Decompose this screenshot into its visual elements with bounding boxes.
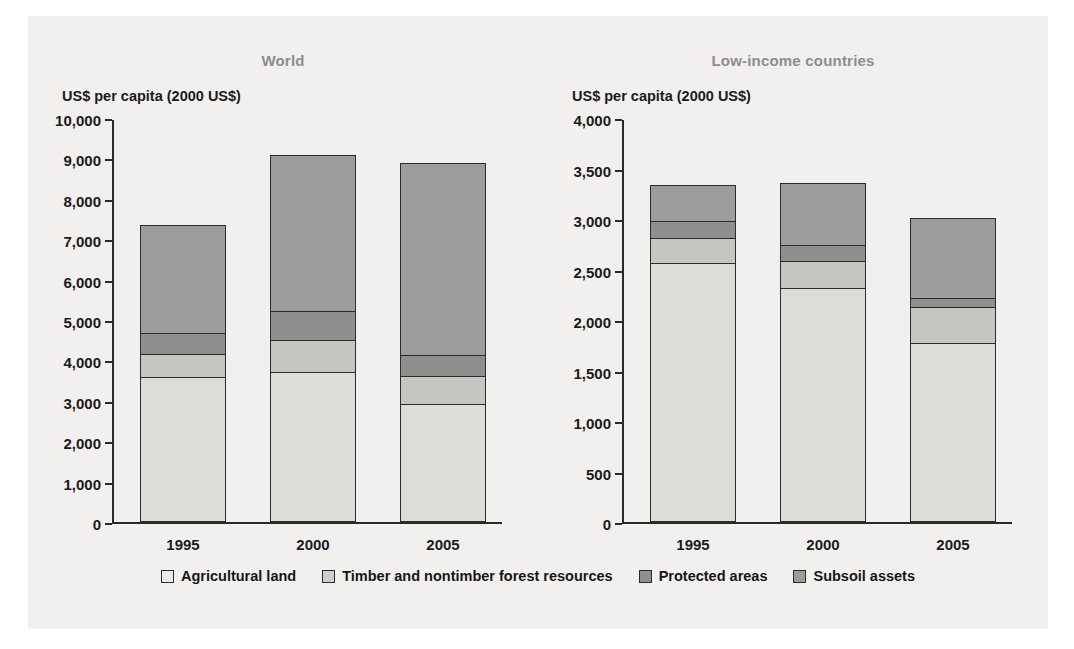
legend-label: Agricultural land [181, 568, 296, 584]
y-axis-tick-label: 5,000 [63, 314, 101, 331]
y-axis-tick [105, 281, 112, 283]
y-axis-tick [615, 170, 622, 172]
chart-panel-world: World US$ per capita (2000 US$) 01,0002,… [28, 16, 538, 629]
y-axis-tick [105, 159, 112, 161]
x-axis-tick-label: 2000 [780, 536, 866, 553]
legend-swatch-icon [639, 570, 652, 583]
bar-segment-agricultural-land [910, 343, 996, 522]
y-axis-tick-label: 3,500 [573, 162, 611, 179]
x-axis-line-world [112, 522, 502, 524]
bar-segment-agricultural-land [270, 372, 356, 522]
bar-segment-subsoil-assets [910, 218, 996, 299]
bar-segment-timber-and-nontimber-forest-resources [650, 238, 736, 265]
stacked-bar [270, 157, 356, 522]
legend-label: Protected areas [659, 568, 768, 584]
bar-segment-timber-and-nontimber-forest-resources [780, 261, 866, 289]
legend-swatch-icon [322, 570, 335, 583]
bar-segment-protected-areas [780, 245, 866, 262]
plot-area-low-income: 05001,0001,5002,0002,5003,0003,5004,0001… [622, 120, 1012, 524]
y-axis-tick-label: 2,000 [63, 435, 101, 452]
y-axis-tick [105, 402, 112, 404]
bar-segment-agricultural-land [650, 263, 736, 522]
y-axis-tick [615, 422, 622, 424]
y-axis-line-world [112, 120, 114, 524]
y-axis-tick-label: 6,000 [63, 273, 101, 290]
x-axis-line-low-income [622, 522, 1012, 524]
y-axis-tick-label: 1,000 [573, 415, 611, 432]
chart-legend: Agricultural landTimber and nontimber fo… [28, 568, 1048, 584]
figure-canvas: World US$ per capita (2000 US$) 01,0002,… [28, 16, 1048, 629]
legend-swatch-icon [161, 570, 174, 583]
plot-area-world: 01,0002,0003,0004,0005,0006,0007,0008,00… [112, 120, 502, 524]
legend-item-timber-and-nontimber-forest-resources: Timber and nontimber forest resources [322, 568, 612, 584]
y-axis-tick-label: 0 [93, 516, 101, 533]
chart-title-low-income: Low-income countries [538, 52, 1048, 69]
bar-segment-timber-and-nontimber-forest-resources [910, 307, 996, 344]
x-axis-tick-label: 2005 [400, 536, 486, 553]
y-axis-tick-label: 4,000 [63, 354, 101, 371]
legend-item-subsoil-assets: Subsoil assets [793, 568, 915, 584]
chart-panel-low-income: Low-income countries US$ per capita (200… [538, 16, 1048, 629]
y-axis-tick [615, 271, 622, 273]
y-axis-tick [615, 321, 622, 323]
bar-segment-protected-areas [400, 355, 486, 378]
stacked-bar [400, 164, 486, 522]
bar-segment-agricultural-land [400, 404, 486, 522]
x-axis-tick-label: 2005 [910, 536, 996, 553]
y-axis-label-low-income: US$ per capita (2000 US$) [572, 88, 751, 104]
y-axis-tick [105, 523, 112, 525]
bar-segment-subsoil-assets [780, 183, 866, 247]
y-axis-tick-label: 1,500 [573, 364, 611, 381]
y-axis-tick-label: 10,000 [55, 112, 101, 129]
y-axis-tick [105, 119, 112, 121]
y-axis-tick-label: 3,000 [573, 213, 611, 230]
y-axis-tick [615, 523, 622, 525]
legend-item-protected-areas: Protected areas [639, 568, 768, 584]
y-axis-tick [105, 361, 112, 363]
bar-segment-timber-and-nontimber-forest-resources [270, 340, 356, 374]
bar-segment-agricultural-land [140, 377, 226, 522]
x-axis-tick-label: 2000 [270, 536, 356, 553]
bar-segment-subsoil-assets [400, 163, 486, 357]
y-axis-tick [105, 240, 112, 242]
x-axis-tick-label: 1995 [650, 536, 736, 553]
x-axis-tick-label: 1995 [140, 536, 226, 553]
bar-segment-subsoil-assets [140, 225, 226, 334]
chart-title-world: World [28, 52, 538, 69]
legend-label: Subsoil assets [813, 568, 915, 584]
bar-segment-timber-and-nontimber-forest-resources [400, 376, 486, 405]
y-axis-tick-label: 0 [603, 516, 611, 533]
legend-swatch-icon [793, 570, 806, 583]
y-axis-label-world: US$ per capita (2000 US$) [62, 88, 241, 104]
y-axis-tick [105, 321, 112, 323]
stacked-bar [140, 227, 226, 522]
y-axis-tick-label: 2,000 [573, 314, 611, 331]
stacked-bar [910, 220, 996, 522]
bar-segment-subsoil-assets [650, 185, 736, 222]
y-axis-tick-label: 7,000 [63, 233, 101, 250]
y-axis-tick [615, 220, 622, 222]
stacked-bar [650, 186, 736, 522]
bar-segment-subsoil-assets [270, 155, 356, 313]
y-axis-tick [615, 119, 622, 121]
y-axis-tick-label: 4,000 [573, 112, 611, 129]
y-axis-tick [105, 442, 112, 444]
y-axis-tick-label: 9,000 [63, 152, 101, 169]
y-axis-tick [105, 483, 112, 485]
bar-segment-protected-areas [270, 311, 356, 340]
y-axis-tick-label: 500 [586, 465, 611, 482]
y-axis-line-low-income [622, 120, 624, 524]
y-axis-tick [615, 372, 622, 374]
legend-label: Timber and nontimber forest resources [342, 568, 612, 584]
bar-segment-timber-and-nontimber-forest-resources [140, 354, 226, 378]
bar-segment-protected-areas [650, 221, 736, 239]
bar-segment-agricultural-land [780, 288, 866, 522]
bar-segment-protected-areas [140, 333, 226, 355]
y-axis-tick-label: 2,500 [573, 263, 611, 280]
y-axis-tick [615, 473, 622, 475]
y-axis-tick-label: 1,000 [63, 475, 101, 492]
stacked-bar [780, 184, 866, 522]
y-axis-tick-label: 3,000 [63, 394, 101, 411]
y-axis-tick-label: 8,000 [63, 192, 101, 209]
y-axis-tick [105, 200, 112, 202]
